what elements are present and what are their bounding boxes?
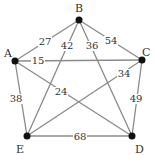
node-label-a: A — [3, 47, 13, 60]
edge-weight-b-c: 54 — [105, 35, 118, 46]
edge-weight-e-d: 68 — [74, 131, 87, 142]
node-label-c: C — [142, 46, 150, 59]
edge-weight-b-d: 36 — [86, 40, 99, 51]
node-a — [12, 58, 19, 65]
edge-weight-c-e: 34 — [118, 68, 131, 79]
edge-weight-a-d: 24 — [55, 86, 68, 97]
edge-weight-a-e: 38 — [10, 93, 23, 104]
node-label-d: D — [135, 143, 144, 155]
edge-weight-b-e: 42 — [61, 40, 74, 51]
node-label-e: E — [16, 143, 24, 155]
weighted-graph: 27541542363424384968 ABCDE — [0, 0, 153, 155]
node-e — [24, 133, 31, 140]
edge-labels: 27541542363424384968 — [9, 35, 143, 142]
node-label-b: B — [75, 2, 83, 15]
edge-weight-c-d: 49 — [130, 93, 143, 104]
edge-weight-a-b: 27 — [39, 36, 52, 47]
node-d — [129, 133, 136, 140]
edge-weight-a-c: 15 — [32, 55, 45, 66]
node-b — [76, 17, 83, 24]
